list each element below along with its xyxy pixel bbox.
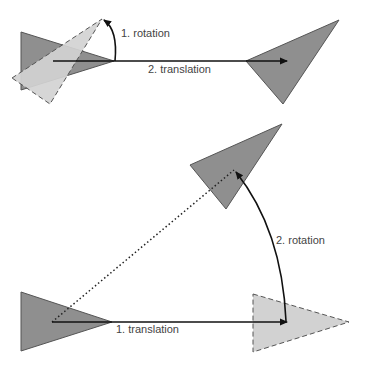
transform-order-diagram: 1. rotation 2. translation 1. translatio… xyxy=(0,0,366,370)
rotation-label-top: 1. rotation xyxy=(121,27,170,39)
rotation-label-bottom: 2. rotation xyxy=(276,234,325,246)
dotted-path-bottom xyxy=(52,170,234,322)
final-triangle-top xyxy=(246,20,339,104)
final-triangle-bottom xyxy=(190,124,282,209)
bottom-diagram: 1. translation 2. rotation xyxy=(21,124,349,352)
rotation-arc-top xyxy=(104,20,116,61)
translation-label-top: 2. translation xyxy=(148,63,211,75)
translation-label-bottom: 1. translation xyxy=(116,323,179,335)
translated-triangle-bottom xyxy=(253,294,349,352)
top-diagram: 1. rotation 2. translation xyxy=(12,19,339,104)
